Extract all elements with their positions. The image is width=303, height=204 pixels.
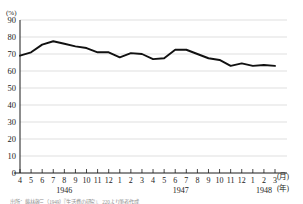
line-chart: 0102030405060708090 45678910111212345678… <box>0 0 303 204</box>
data-series-line <box>20 41 275 66</box>
x-axis-year-labels: 194619471948 <box>56 186 272 195</box>
x-axis-year-label: 1947 <box>173 186 189 195</box>
x-axis-tick-label: 8 <box>195 176 199 185</box>
x-axis-tick-label: 9 <box>206 176 210 185</box>
x-axis-tick-label: 5 <box>162 176 166 185</box>
y-axis-tick-label: 10 <box>8 151 17 161</box>
x-axis-tick-label: 2 <box>129 176 133 185</box>
x-axis-tick-label: 10 <box>83 176 91 185</box>
y-axis-tick-label: 70 <box>8 49 17 59</box>
x-axis-tick-label: 3 <box>140 176 144 185</box>
y-axis-tick-label: 40 <box>8 100 17 110</box>
x-axis-tick-label: 11 <box>227 176 235 185</box>
x-axis-year-label: 1946 <box>56 186 72 195</box>
gridlines <box>20 20 287 156</box>
y-axis-tick-label: 60 <box>8 66 17 76</box>
x-axis-tick-label: 2 <box>262 176 266 185</box>
x-axis-tick-labels: 456789101112123456789101112123 <box>18 176 277 185</box>
y-axis-unit-label: (%) <box>6 9 17 17</box>
x-axis-tick-label: 7 <box>51 176 55 185</box>
x-axis-tick-label: 6 <box>40 176 44 185</box>
source-note: 出所：藤林敬三（1949）『生活費の研究』、220より筆者作成 <box>10 199 139 204</box>
y-axis-tick-label: 50 <box>8 83 17 93</box>
x-axis-year-label: 1948 <box>256 186 272 195</box>
x-axis-tickmarks <box>20 169 275 173</box>
x-axis-tick-label: 8 <box>62 176 66 185</box>
x-axis-tick-label: 6 <box>173 176 177 185</box>
y-axis-tick-label: 30 <box>8 117 17 127</box>
x-axis-month-unit-label: (月) <box>277 172 289 181</box>
y-axis-tick-label: 80 <box>8 32 17 42</box>
x-axis-tick-label: 9 <box>73 176 77 185</box>
y-axis-tick-label: 20 <box>8 134 17 144</box>
x-axis-tick-label: 10 <box>216 176 224 185</box>
chart-figure: 0102030405060708090 45678910111212345678… <box>0 0 303 204</box>
x-axis-tick-label: 5 <box>29 176 33 185</box>
x-axis-tick-label: 11 <box>94 176 102 185</box>
x-axis-year-unit-label: (年) <box>277 183 289 193</box>
x-axis-tick-label: 12 <box>238 176 246 185</box>
x-axis-tick-label: 1 <box>251 176 255 185</box>
x-axis-tick-label: 12 <box>105 176 113 185</box>
x-axis-tick-label: 7 <box>184 176 188 185</box>
x-axis-tick-label: 4 <box>151 176 155 185</box>
y-axis-tick-labels: 0102030405060708090 <box>8 15 17 178</box>
x-axis-tick-label: 1 <box>118 176 122 185</box>
x-axis-tick-label: 4 <box>18 176 22 185</box>
